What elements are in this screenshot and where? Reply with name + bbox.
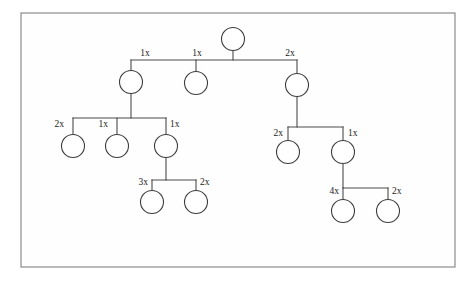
tree-node-c[interactable] [286,74,309,97]
edge-label-root-a: 1x [140,48,150,58]
edge-label-c2-c2b: 2x [392,186,402,196]
tree-node-a[interactable] [120,71,143,94]
edge-label-a-a2: 1x [99,119,109,129]
edge-label-a3-a3b: 2x [200,177,210,187]
edge-label-c-c2: 1x [348,128,358,138]
tree-node-a3[interactable] [155,135,178,158]
tree-node-root[interactable] [222,28,245,51]
edge-label-c-c1: 2x [274,128,284,138]
tree-node-a2[interactable] [106,135,129,158]
tree-node-a3a[interactable] [141,191,164,214]
tree-diagram-canvas: 1x1x2x2x1x1x2x1x3x2x4x2x [0,0,476,283]
tree-node-c2a[interactable] [332,200,355,223]
tree-node-a1[interactable] [62,135,85,158]
tree-node-c2[interactable] [332,141,355,164]
tree-node-a3b[interactable] [185,191,208,214]
tree-diagram-figure: 1x1x2x2x1x1x2x1x3x2x4x2x [0,0,476,283]
edge-label-c2-c2a: 4x [330,186,340,196]
tree-node-c1[interactable] [277,141,300,164]
tree-node-c2b[interactable] [377,200,400,223]
tree-node-b[interactable] [185,72,208,95]
figure-border [21,13,455,267]
edge-label-root-c: 2x [285,48,295,58]
edge-label-a3-a3a: 3x [139,177,149,187]
edge-label-a-a1: 2x [55,119,65,129]
edge-label-root-b: 1x [192,48,202,58]
edge-label-a-a3: 1x [170,119,180,129]
